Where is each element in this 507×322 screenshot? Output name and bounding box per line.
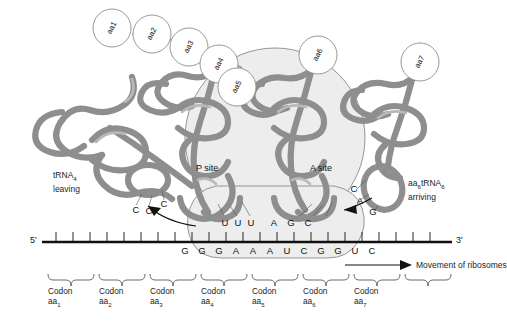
a-site-anticodon-base: G [285, 217, 297, 228]
codon-label: Codon aa2 [99, 286, 123, 310]
codon-label-aa: aa [48, 296, 57, 306]
codon-label-sub: 4 [210, 302, 213, 308]
mrna-base: C [298, 245, 310, 256]
a-site-anticodon-base: C [302, 217, 314, 228]
codon-label-aa: aa [252, 296, 261, 306]
codon-label-text: Codon [99, 286, 123, 296]
codon-braces [48, 274, 451, 286]
mrna-base: U [349, 245, 361, 256]
codon-label: Codon aa1 [48, 286, 72, 310]
codon-label-aa: aa [354, 296, 363, 306]
trna-leaving-text2: leaving [53, 184, 80, 194]
codon-label-sub: 3 [159, 302, 162, 308]
trna-arriving-anticodon-base: C [348, 183, 360, 194]
mrna-base: A [264, 245, 276, 256]
trna-leaving-label: tRNA4 leaving [53, 170, 80, 195]
p-site-anticodon-base: U [219, 217, 231, 228]
mrna-base: G [332, 245, 344, 256]
codon-label-sub: 2 [108, 302, 111, 308]
codon-label-aa: aa [201, 296, 210, 306]
a-site-anticodon-base: A [268, 217, 280, 228]
mrna-base: U [281, 245, 293, 256]
codon-label-sub: 7 [363, 302, 366, 308]
codon-label-text: Codon [354, 286, 378, 296]
trna-leaving-sub: 4 [73, 175, 76, 182]
codon-label: Codon aa7 [354, 286, 378, 310]
trna-leaving-anticodon-base: C [158, 198, 170, 209]
mrna-base: G [179, 245, 191, 256]
trna-arriving-anticodon-base: A [354, 195, 366, 206]
trna-leaving-text: tRNA [53, 170, 73, 180]
arrow-movement-of-ribosomes [345, 260, 412, 270]
p-site-anticodon-base: U [232, 217, 244, 228]
a-site-label: A site [310, 163, 332, 173]
trna-arriving-anticodon-base: G [367, 206, 379, 217]
codon-label-text: Codon [201, 286, 225, 296]
codon-label-text: Codon [303, 286, 327, 296]
mrna-base: A [247, 245, 259, 256]
movement-of-ribosomes-label: Movement of ribosomes [416, 260, 507, 271]
codon-label: Codon aa6 [303, 286, 327, 310]
codon-label: Codon aa4 [201, 286, 225, 310]
codon-label-text: Codon [252, 286, 276, 296]
mrna-base: C [366, 245, 378, 256]
mrna-base: G [315, 245, 327, 256]
trna-arriving-text-mid: tRNA [421, 178, 441, 188]
codon-label: Codon aa5 [252, 286, 276, 310]
trna-leaving-anticodon-base: C [143, 205, 155, 216]
codon-label-sub: 1 [57, 302, 60, 308]
mrna-base: G [213, 245, 225, 256]
trna-arriving-sub2: 6 [441, 183, 444, 190]
mrna-base: A [230, 245, 242, 256]
trna-arriving-text2: arriving [408, 192, 436, 202]
p-site-label: P site [196, 163, 218, 173]
codon-label-text: Codon [150, 286, 174, 296]
codon-label: Codon aa3 [150, 286, 174, 310]
p-site-anticodon-base: U [245, 217, 257, 228]
codon-label-sub: 5 [261, 302, 264, 308]
codon-label-text: Codon [48, 286, 72, 296]
codon-label-aa: aa [303, 296, 312, 306]
trna-leaving-anticodon-base: C [130, 204, 142, 215]
three-prime-label: 3' [456, 235, 463, 245]
mrna-ticks [56, 232, 430, 242]
five-prime-label: 5' [30, 235, 37, 245]
codon-label-aa: aa [99, 296, 108, 306]
codon-label-aa: aa [150, 296, 159, 306]
trna-arriving-label: aa6tRNA6 arriving [408, 178, 445, 203]
codon-label-sub: 6 [312, 302, 315, 308]
mrna-base: G [196, 245, 208, 256]
